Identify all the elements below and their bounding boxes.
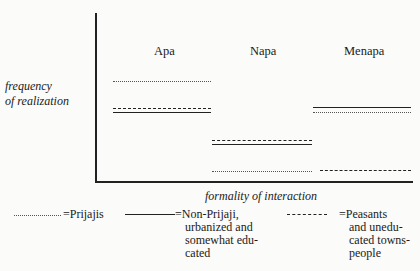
legend-nonprijaji-line4: cated bbox=[175, 247, 258, 260]
napa-prijajis-line bbox=[212, 171, 312, 172]
legend-dotted-swatch bbox=[14, 215, 61, 216]
legend-solid-swatch bbox=[125, 214, 175, 215]
y-axis bbox=[95, 13, 97, 183]
legend-prijajis: =Prijajis bbox=[63, 208, 104, 221]
category-menapa: Menapa bbox=[344, 44, 384, 59]
apa-peasants-line bbox=[113, 108, 211, 109]
menapa-peasants-line bbox=[320, 170, 411, 171]
legend-nonprijaji: =Non-Prijaji, urbanized and somewhat edu… bbox=[175, 208, 258, 260]
napa-nonprijaji-line bbox=[212, 144, 312, 145]
legend-dashed-swatch bbox=[287, 214, 327, 215]
menapa-nonprijaji-line bbox=[313, 107, 411, 108]
apa-nonprijaji-line bbox=[113, 112, 211, 113]
napa-peasants-line bbox=[212, 140, 312, 141]
y-axis-label-line1: frequency bbox=[5, 79, 69, 94]
category-napa: Napa bbox=[250, 44, 276, 59]
y-axis-label: frequency of realization bbox=[5, 79, 69, 109]
menapa-prijajis-line bbox=[313, 112, 411, 113]
legend-peasants-line4: people bbox=[339, 247, 410, 260]
y-axis-label-line2: of realization bbox=[5, 94, 69, 109]
apa-prijajis-line bbox=[113, 81, 211, 82]
x-axis-label: formality of interaction bbox=[205, 189, 317, 204]
category-apa: Apa bbox=[154, 44, 175, 59]
legend-peasants: =Peasants and unedu- cated towns- people bbox=[339, 208, 410, 260]
x-axis bbox=[95, 181, 413, 183]
